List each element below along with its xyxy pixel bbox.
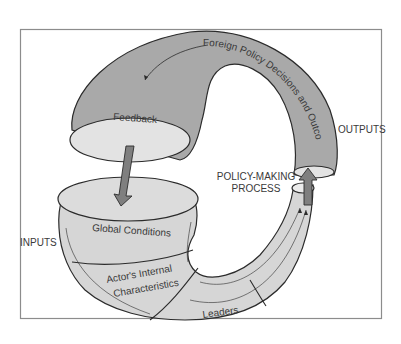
inputs-label: INPUTS [20, 237, 57, 248]
process-label-line1: POLICY-MAKING [217, 171, 296, 182]
inputs-funnel [58, 177, 332, 328]
outcomes-horn [70, 31, 337, 178]
foreign-policy-diagram: INPUTS OUTPUTS POLICY-MAKING PROCESS Fee… [0, 0, 401, 344]
outputs-label: OUTPUTS [338, 124, 386, 135]
process-label-line2: PROCESS [232, 183, 281, 194]
